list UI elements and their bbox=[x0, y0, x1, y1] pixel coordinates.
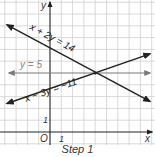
intersection-point bbox=[94, 71, 97, 74]
coordinate-graph: x + 2y = 14 y = 5 x − 3y = −11 y x O 1 1 bbox=[0, 0, 155, 145]
y-tick-label: 1 bbox=[43, 115, 48, 125]
label-y-equals-5: y = 5 bbox=[19, 59, 42, 70]
y-axis-label: y bbox=[40, 0, 47, 11]
caption: Step 1 bbox=[0, 143, 155, 155]
